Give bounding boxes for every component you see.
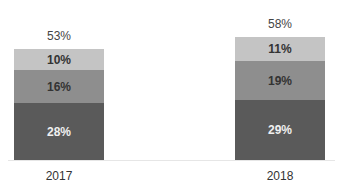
x-axis-line xyxy=(8,160,335,161)
segment-1-2018: 29% xyxy=(235,100,325,160)
segment-3-2017: 10% xyxy=(14,49,104,70)
total-label-2017: 53% xyxy=(14,29,104,43)
x-tick-2018: 2018 xyxy=(235,169,325,183)
x-tick-2017: 2017 xyxy=(14,169,104,183)
bar-2018: 11% 19% 29% xyxy=(235,37,325,160)
segment-3-2018: 11% xyxy=(235,37,325,61)
segment-2-2018: 19% xyxy=(235,61,325,100)
segment-1-2017: 28% xyxy=(14,103,104,160)
stacked-bar-chart: 53% 10% 16% 28% 2017 58% 11% 19% 29% 201… xyxy=(0,0,343,189)
bar-2017: 10% 16% 28% xyxy=(14,49,104,160)
total-label-2018: 58% xyxy=(235,17,325,31)
segment-2-2017: 16% xyxy=(14,70,104,103)
